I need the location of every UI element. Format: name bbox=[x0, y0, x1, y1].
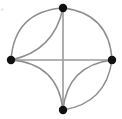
graph-canvas bbox=[0, 0, 122, 119]
vertex-left bbox=[7, 56, 15, 64]
edge-top-right-4 bbox=[63, 8, 112, 60]
curved-edges-group bbox=[11, 8, 112, 110]
artifact-group bbox=[2, 9, 4, 11]
edge-top-left-2 bbox=[11, 8, 63, 60]
vertex-right bbox=[108, 56, 116, 64]
faint-speck-icon bbox=[2, 9, 4, 11]
edge-top-left-3 bbox=[11, 8, 63, 60]
edge-left-bottom-5 bbox=[11, 60, 63, 110]
vertex-bottom bbox=[59, 106, 67, 114]
figure-root bbox=[0, 0, 122, 119]
vertex-top bbox=[59, 4, 67, 12]
vertices-group bbox=[7, 4, 116, 114]
